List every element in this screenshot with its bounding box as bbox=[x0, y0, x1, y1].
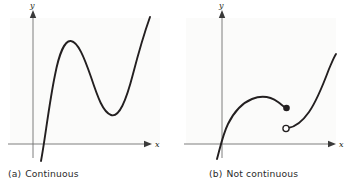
panel-not-continuous: x y (b)Not continuous bbox=[176, 0, 352, 195]
caption-text-b: Not continuous bbox=[226, 168, 298, 179]
plot-background bbox=[10, 18, 160, 144]
continuity-figure: x y (a)Continuous x y bbox=[0, 0, 352, 195]
y-axis-label: y bbox=[29, 1, 35, 10]
y-axis-arrow-icon bbox=[30, 10, 36, 18]
caption-continuous: (a)Continuous bbox=[8, 168, 79, 179]
filled-dot-marker bbox=[283, 105, 290, 112]
caption-not-continuous: (b)Not continuous bbox=[209, 168, 298, 179]
plot-not-continuous: x y bbox=[176, 0, 352, 165]
y-axis-label: y bbox=[218, 1, 224, 10]
caption-tag-a: (a) bbox=[8, 168, 21, 179]
caption-text-a: Continuous bbox=[25, 168, 78, 179]
y-axis-arrow-icon bbox=[219, 10, 225, 18]
x-axis-label: x bbox=[339, 140, 344, 149]
plot-background bbox=[186, 18, 336, 144]
caption-tag-b: (b) bbox=[209, 168, 222, 179]
x-axis-label: x bbox=[155, 140, 160, 149]
open-dot-marker bbox=[283, 125, 289, 131]
plot-continuous: x y bbox=[0, 0, 176, 165]
panel-continuous: x y (a)Continuous bbox=[0, 0, 176, 195]
